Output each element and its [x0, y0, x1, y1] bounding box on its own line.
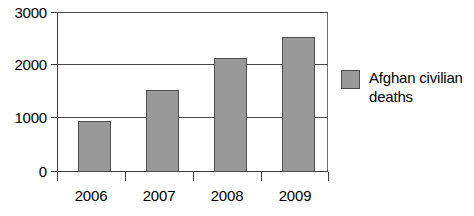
bar-chart-figure: 3000 2000 1000 0 2006 2007 2008 2009 Afg… — [0, 0, 474, 216]
y-tickmark-1000 — [51, 117, 57, 118]
x-tickmark-1 — [125, 172, 126, 181]
x-axis-label-2008: 2008 — [193, 188, 261, 204]
y-axis-tick-label-2000: 2000 — [0, 57, 47, 72]
gridline-3000 — [57, 12, 328, 13]
bar-2008[interactable] — [214, 58, 247, 172]
plot-right-border — [327, 12, 328, 172]
y-tickmark-2000 — [51, 64, 57, 65]
x-tickmark-4 — [328, 172, 329, 181]
bar-2009[interactable] — [282, 37, 315, 172]
y-axis-tick-label-0: 0 — [0, 164, 47, 179]
y-axis-tick-label-1000: 1000 — [0, 110, 47, 125]
x-tickmark-2 — [193, 172, 194, 181]
x-tickmark-3 — [261, 172, 262, 181]
legend-color-swatch-icon — [341, 70, 360, 89]
x-tickmark-0 — [57, 172, 58, 181]
y-axis-tick-label-3000: 3000 — [0, 5, 47, 20]
y-tickmark-3000 — [51, 12, 57, 13]
bar-2007[interactable] — [146, 90, 179, 172]
bar-2006[interactable] — [78, 121, 111, 172]
chart-legend: Afghan civilian deaths — [341, 68, 474, 106]
x-axis-label-2006: 2006 — [57, 188, 125, 204]
x-axis-label-2007: 2007 — [125, 188, 193, 204]
legend-series-label: Afghan civilian deaths — [369, 68, 474, 106]
y-axis-line — [57, 12, 58, 172]
plot-area — [57, 12, 328, 172]
x-axis-label-2009: 2009 — [261, 188, 329, 204]
